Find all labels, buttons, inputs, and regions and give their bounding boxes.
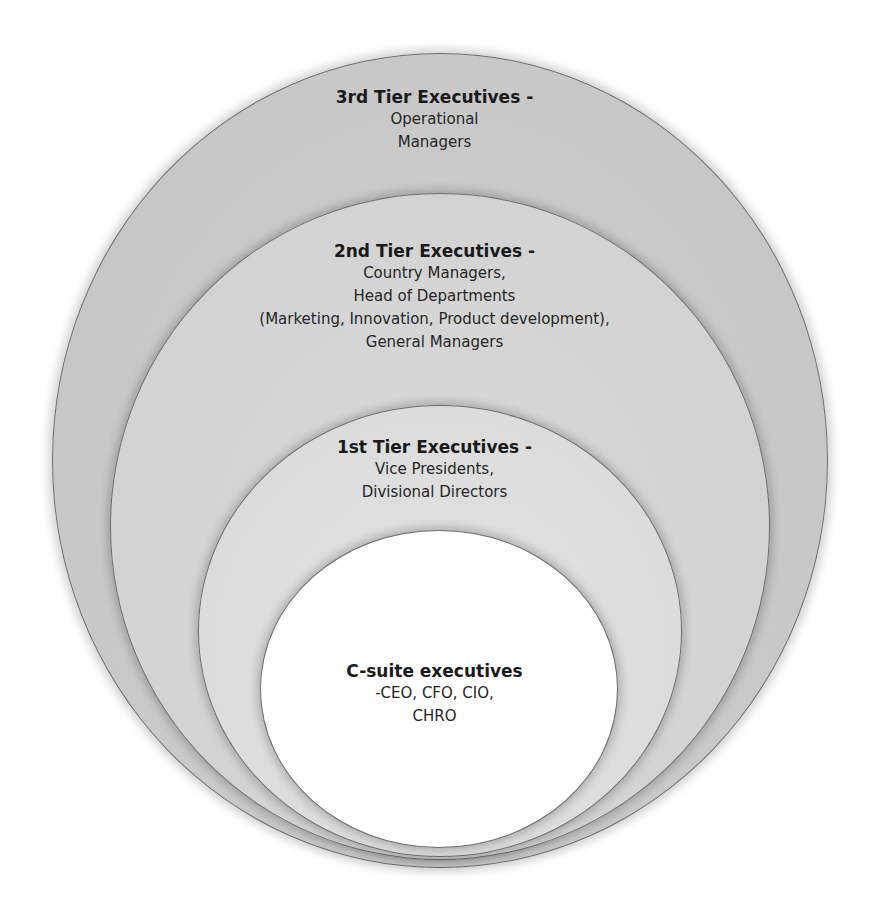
tier2-title: 2nd Tier Executives - bbox=[0, 240, 869, 262]
tier3-label: 3rd Tier Executives - Operational Manage… bbox=[0, 86, 869, 154]
tier1-title: 1st Tier Executives - bbox=[0, 436, 869, 458]
csuite-line: -CEO, CFO, CIO, bbox=[0, 682, 869, 705]
csuite-line: CHRO bbox=[0, 705, 869, 728]
csuite-title: C-suite executives bbox=[0, 660, 869, 682]
tier3-line: Operational bbox=[0, 108, 869, 131]
tier2-line: Country Managers, bbox=[0, 262, 869, 285]
tier1-label: 1st Tier Executives - Vice Presidents, D… bbox=[0, 436, 869, 504]
tier1-line: Divisional Directors bbox=[0, 481, 869, 504]
tier2-line: Head of Departments bbox=[0, 285, 869, 308]
tier1-line: Vice Presidents, bbox=[0, 458, 869, 481]
tier3-title: 3rd Tier Executives - bbox=[0, 86, 869, 108]
tier2-line: General Managers bbox=[0, 331, 869, 354]
tier2-label: 2nd Tier Executives - Country Managers, … bbox=[0, 240, 869, 354]
tier2-line: (Marketing, Innovation, Product developm… bbox=[0, 308, 869, 331]
tier3-line: Managers bbox=[0, 131, 869, 154]
csuite-label: C-suite executives -CEO, CFO, CIO, CHRO bbox=[0, 660, 869, 728]
